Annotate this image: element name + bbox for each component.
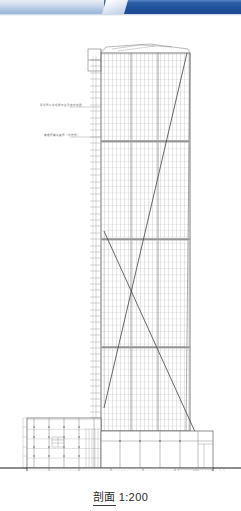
drawing-sheet: 屋顶层公共观景平台及空中花园 避难层兼设备层（机电层） 剖面1:200 (0, 16, 241, 511)
tower-roof-notch (88, 49, 101, 71)
building-section-drawing (0, 16, 241, 471)
mechanical-floor-band-2 (101, 238, 190, 241)
tower-floor-slabs (101, 53, 190, 431)
podium-block (23, 418, 101, 468)
window-title-bar (0, 0, 241, 14)
title-bar-left-pane (0, 0, 104, 14)
annotation-upper-text: 屋顶层公共观景平台及空中花园 (40, 104, 82, 107)
tower-lobby (86, 428, 213, 468)
lobby-outline (101, 431, 213, 468)
drawing-caption: 剖面1:200 (93, 488, 148, 506)
mechanical-floor-band-1 (101, 140, 190, 143)
caption-row: 剖面1:200 (0, 486, 241, 508)
tower-block (88, 44, 190, 431)
podium-level-ticks (23, 418, 27, 468)
title-bar-tab[interactable] (102, 0, 128, 14)
caption-scale: 1:200 (119, 491, 149, 503)
basement-fill (27, 468, 213, 471)
tower-crown-structure (101, 44, 190, 53)
tower-level-ticks (90, 60, 101, 425)
tower-level-tick-stack (93, 56, 96, 431)
caption-label: 剖面 (93, 488, 116, 506)
basement-block (27, 468, 213, 471)
annotation-lower-text: 避难层兼设备层（机电层） (44, 134, 80, 137)
annotation-leaders (70, 107, 101, 137)
mechanical-floor-band-3 (101, 346, 190, 349)
